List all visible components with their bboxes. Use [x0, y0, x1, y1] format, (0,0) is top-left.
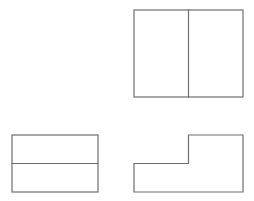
front-view-l-shape-outline: [134, 135, 243, 192]
orthographic-drawing-canvas: [0, 0, 254, 201]
view-bottom-right: [134, 135, 243, 192]
view-top-right: [134, 10, 243, 97]
view-bottom-left: [12, 135, 98, 192]
drawing-svg: [0, 0, 254, 201]
